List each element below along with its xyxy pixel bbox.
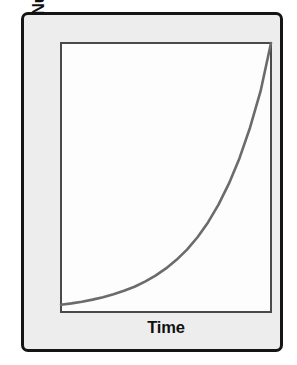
figure-root: Number of Individuals Time [0, 0, 297, 365]
x-axis-title: Time [60, 318, 272, 337]
y-axis-title: Number of Individuals [26, 0, 50, 66]
plot-area [60, 42, 272, 313]
